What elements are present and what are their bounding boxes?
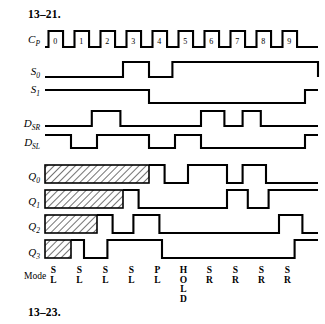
mode-char: L [180, 284, 186, 294]
dont-care-region-q2 [45, 215, 97, 233]
mode-char: S [233, 265, 238, 275]
signal-name: Q [28, 220, 36, 232]
signal-subscript: 0 [36, 71, 40, 80]
mode-char: S [207, 265, 212, 275]
mode-char: S [51, 265, 56, 275]
waveform-q0 [149, 165, 318, 183]
signal-label-dsl: DSL [23, 136, 40, 151]
mode-char: H [180, 265, 188, 275]
mode-char: P [155, 265, 161, 275]
mode-char: S [285, 265, 290, 275]
signal-name: Q [28, 246, 36, 258]
signal-subscript: 1 [36, 89, 40, 98]
clock-cycle-number: 5 [183, 37, 187, 46]
waveform-q1 [123, 190, 318, 208]
waveform-q3 [71, 240, 318, 258]
clock-cycle-number: 1 [79, 37, 83, 46]
mode-char: R [206, 275, 213, 285]
waveform-cp [45, 31, 318, 47]
clock-cycle-number: 0 [53, 37, 57, 46]
signal-subscript: P [34, 39, 40, 48]
mode-char: R [258, 275, 265, 285]
signal-label-q2: Q2 [28, 220, 40, 235]
mode-char: D [180, 294, 187, 304]
mode-char: S [259, 265, 264, 275]
clock-cycle-number: 9 [287, 37, 291, 46]
waveform-q2 [97, 215, 318, 233]
mode-char: L [50, 275, 56, 285]
signal-subscript: 3 [35, 252, 40, 261]
mode-column-group: SLSLSLSLPLHOLDSRSRSRSR [50, 265, 291, 304]
mode-char: L [76, 275, 82, 285]
mode-char: O [180, 275, 187, 285]
mode-char: R [232, 275, 239, 285]
waveform-dsr [45, 111, 318, 126]
signal-subscript: 1 [36, 201, 40, 210]
waveform-group [45, 31, 318, 258]
timing-diagram-figure: 13–21. CPS0S1DSRDSLQ0Q1Q2Q3 0123456789 M… [0, 0, 325, 324]
waveform-dsl [45, 135, 318, 148]
clock-cycle-number: 3 [131, 37, 135, 46]
signal-name: Q [28, 170, 36, 182]
mode-char: L [102, 275, 108, 285]
signal-label-dsr: DSR [23, 117, 41, 132]
signal-label-s1: S1 [31, 83, 40, 98]
mode-char: S [103, 265, 108, 275]
clock-cycle-number: 2 [105, 37, 109, 46]
signal-label-group: CPS0S1DSRDSLQ0Q1Q2Q3 [23, 33, 41, 261]
mode-char: L [128, 275, 134, 285]
problem-number-bottom: 13–23. [28, 306, 61, 318]
clock-cycle-number: 8 [261, 37, 265, 46]
signal-label-q0: Q0 [28, 170, 40, 185]
mode-char: R [284, 275, 291, 285]
mode-char: S [129, 265, 134, 275]
dont-care-region-q1 [45, 190, 123, 208]
waveform-s0 [45, 62, 318, 77]
mode-row-label: Mode [24, 271, 46, 281]
signal-label-cp: CP [28, 33, 40, 48]
clock-cycle-number: 4 [157, 37, 161, 46]
clock-cycle-number: 6 [209, 37, 213, 46]
signal-label-s0: S0 [31, 65, 41, 80]
signal-label-q1: Q1 [28, 195, 40, 210]
signal-name: Q [28, 195, 36, 207]
signal-name: D [23, 136, 32, 148]
dont-care-region-q0 [45, 165, 149, 183]
waveform-s1 [45, 90, 318, 103]
mode-char: L [154, 275, 160, 285]
mode-char: S [77, 265, 82, 275]
signal-subscript: 0 [36, 176, 40, 185]
dont-care-region-q3 [45, 240, 71, 258]
clock-cycle-number: 7 [235, 37, 239, 46]
signal-subscript: SR [32, 123, 41, 132]
signal-subscript: 2 [36, 226, 40, 235]
signal-subscript: SL [32, 142, 40, 151]
signal-label-q3: Q3 [28, 246, 40, 261]
signal-name: D [23, 117, 32, 129]
problem-number-top: 13–21. [28, 8, 61, 20]
